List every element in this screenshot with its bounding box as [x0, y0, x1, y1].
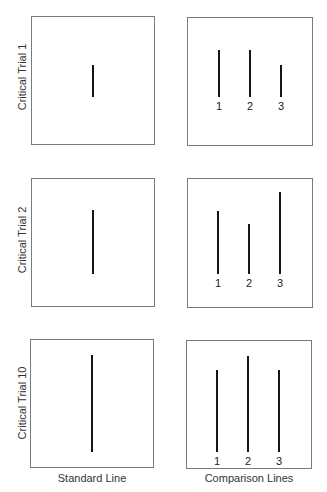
caption-standard-line: Standard Line — [58, 472, 127, 485]
comparison-line-2 — [249, 50, 251, 97]
comparison-line-number: 3 — [273, 455, 285, 467]
comparison-line-2 — [247, 356, 249, 452]
comparison-line-1 — [218, 50, 220, 97]
comparison-line-number: 2 — [244, 100, 256, 112]
comparison-line-1 — [217, 211, 219, 274]
comparison-line-3 — [280, 65, 282, 97]
comparison-line-3 — [278, 370, 280, 452]
comparison-line-number: 1 — [211, 455, 223, 467]
trial-label: Critical Trial 1 — [16, 44, 28, 111]
comparison-line-3 — [279, 192, 281, 274]
trial-label: Critical Trial 2 — [16, 207, 28, 274]
comparison-line-1 — [216, 370, 218, 452]
comparison-line-number: 1 — [212, 277, 224, 289]
standard-line — [92, 65, 94, 97]
caption-comparison-lines: Comparison Lines — [205, 472, 294, 485]
comparison-lines-panel — [186, 340, 312, 469]
comparison-line-number: 3 — [274, 277, 286, 289]
standard-line — [92, 210, 94, 274]
comparison-line-number: 3 — [275, 100, 287, 112]
comparison-line-number: 2 — [243, 277, 255, 289]
standard-line — [91, 355, 93, 452]
comparison-line-number: 2 — [242, 455, 254, 467]
comparison-line-number: 1 — [213, 100, 225, 112]
trial-label: Critical Trial 10 — [16, 367, 28, 440]
comparison-line-2 — [248, 224, 250, 274]
